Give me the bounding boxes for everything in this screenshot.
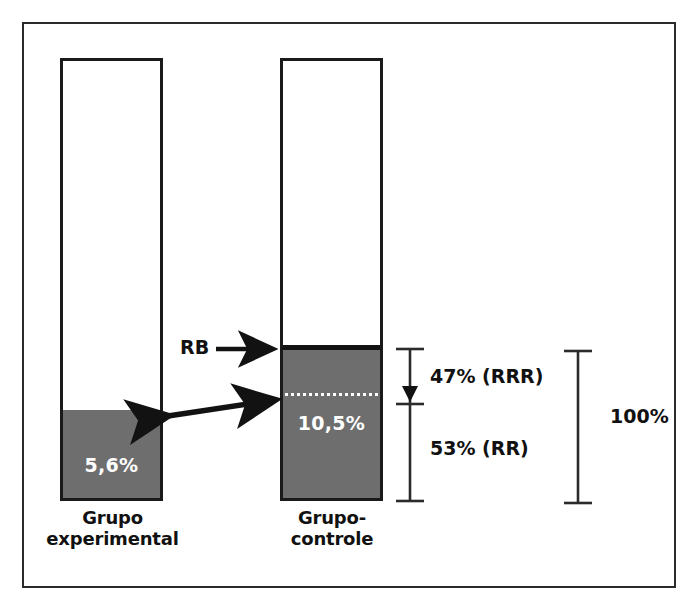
figure-container: 5,6% 10,5% Grupo experimental Grupo- con…: [0, 0, 698, 611]
bar-value-label-grupo-controle: 10,5%: [283, 412, 380, 434]
bar-grupo-controle: 10,5%: [280, 58, 383, 501]
bar-value-label-grupo-experimental: 5,6%: [63, 454, 160, 476]
caption-grupo-controle-line1: Grupo-: [262, 508, 402, 529]
bar-grupo-experimental: 5,6%: [60, 58, 163, 501]
rb-marker-line: [283, 345, 380, 350]
caption-grupo-experimental-line1: Grupo: [20, 508, 205, 529]
experimental-risk-dotted-line: [285, 393, 378, 396]
bar-fill-grupo-experimental: 5,6%: [63, 410, 160, 498]
caption-grupo-experimental-line2: experimental: [20, 529, 205, 550]
caption-grupo-controle: Grupo- controle: [262, 508, 402, 549]
caption-grupo-experimental: Grupo experimental: [20, 508, 205, 549]
bar-fill-grupo-controle: 10,5%: [283, 345, 380, 498]
caption-grupo-controle-line2: controle: [262, 529, 402, 550]
label-rr: 53% (RR): [430, 437, 529, 459]
rb-label: RB: [180, 336, 209, 358]
label-total-100: 100%: [610, 405, 669, 427]
label-rrr: 47% (RRR): [430, 365, 543, 387]
